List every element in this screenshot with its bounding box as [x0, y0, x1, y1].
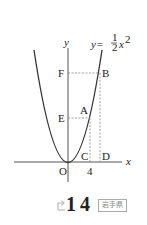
x-axis-label: x	[125, 155, 131, 167]
svg-text:2: 2	[125, 33, 131, 45]
equation-label: y= 1 2 x 2	[90, 31, 131, 53]
point-D-label: D	[102, 150, 110, 162]
problem-footer: 14 岩手県	[0, 194, 147, 218]
parabola-diagram: y x y= 1 2 x 2 F B A E C D O 4	[0, 0, 147, 225]
tick-label-4: 4	[87, 165, 93, 177]
arrow-icon	[56, 199, 66, 211]
dashed-guides	[68, 73, 100, 162]
point-E-label: E	[58, 112, 65, 124]
svg-text:2: 2	[112, 41, 118, 53]
y-axis-label: y	[63, 36, 69, 48]
region-badge: 岩手県	[98, 199, 127, 212]
point-C-label: C	[81, 150, 88, 162]
problem-number: 14	[66, 193, 94, 215]
origin-label: O	[59, 165, 67, 177]
svg-text:x: x	[118, 38, 124, 50]
point-B-label: B	[102, 67, 109, 79]
point-A-label: A	[80, 104, 88, 116]
svg-text:y=: y=	[90, 38, 103, 50]
point-F-label: F	[58, 67, 64, 79]
